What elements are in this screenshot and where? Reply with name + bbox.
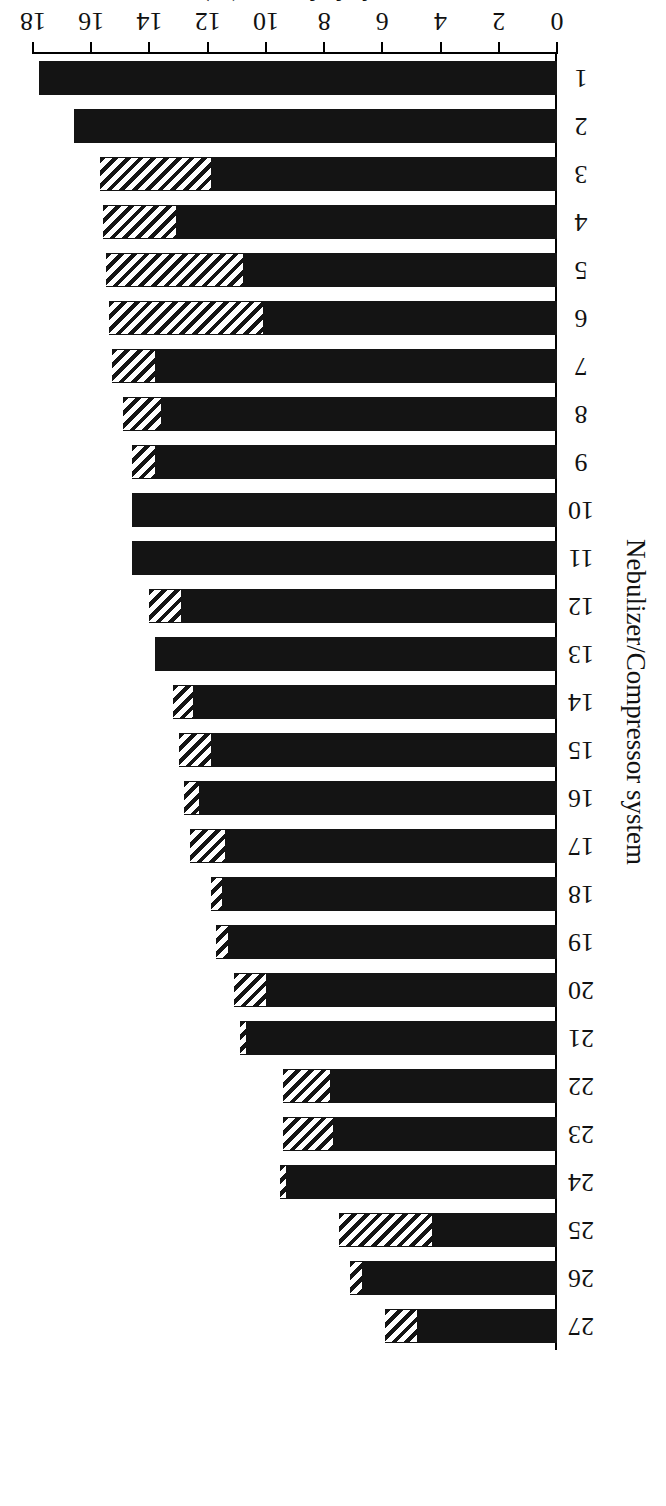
bar-segment-solid [39, 61, 557, 95]
bar-segment-solid [161, 397, 557, 431]
bar-row[interactable]: 19 [33, 925, 557, 959]
value-axis-tick-label: 18 [20, 8, 46, 34]
bar-row[interactable]: 24 [33, 1165, 557, 1199]
bar-row[interactable]: 22 [33, 1069, 557, 1103]
value-axis-tick-label: 12 [195, 8, 221, 34]
bar-row[interactable]: 21 [33, 1021, 557, 1055]
value-axis-tick [323, 42, 325, 54]
bar-row[interactable]: 8 [33, 397, 557, 431]
category-axis-label: 1 [561, 61, 601, 95]
value-axis-tick [556, 42, 558, 54]
value-axis-title: Inhaled mass (%) [33, 0, 557, 6]
bar-segment-hatched [179, 733, 211, 767]
bar-segment-solid [228, 925, 557, 959]
category-axis-label: 3 [561, 157, 601, 191]
category-axis-label: 22 [561, 1069, 601, 1103]
category-axis-label: 25 [561, 1213, 601, 1247]
value-axis-tick-label: 8 [318, 8, 331, 34]
bar-segment-hatched [283, 1069, 330, 1103]
bar-row[interactable]: 14 [33, 685, 557, 719]
bar-segment-hatched [106, 253, 243, 287]
bar-row[interactable]: 15 [33, 733, 557, 767]
bar-segment-solid [330, 1069, 557, 1103]
category-axis-label: 6 [561, 301, 601, 335]
category-axis-label: 2 [561, 109, 601, 143]
bar-row[interactable]: 9 [33, 445, 557, 479]
bar-row[interactable]: 3 [33, 157, 557, 191]
value-axis-tick-label: 14 [136, 8, 162, 34]
bar-row[interactable]: 2 [33, 109, 557, 143]
bar-segment-hatched [112, 349, 156, 383]
bar-segment-solid [417, 1309, 557, 1343]
bar-segment-solid [132, 493, 557, 527]
bar-segment-hatched [103, 205, 176, 239]
value-axis-tick-label: 6 [376, 8, 389, 34]
value-axis-tick-label: 4 [434, 8, 447, 34]
category-axis-label: 5 [561, 253, 601, 287]
bar-segment-solid [199, 781, 557, 815]
bar-segment-hatched [173, 685, 193, 719]
bar-row[interactable]: 27 [33, 1309, 557, 1343]
value-axis-line [33, 52, 557, 54]
bar-row[interactable]: 16 [33, 781, 557, 815]
bar-row[interactable]: 20 [33, 973, 557, 1007]
category-axis-label: 19 [561, 925, 601, 959]
bar-segment-solid [246, 1021, 557, 1055]
value-axis-tick [498, 42, 500, 54]
bar-segment-solid [211, 157, 557, 191]
bar-segment-hatched [100, 157, 211, 191]
bar-segment-solid [74, 109, 557, 143]
bar-segment-hatched [216, 925, 228, 959]
bar-row[interactable]: 10 [33, 493, 557, 527]
plot-area: 0246810121416181234567891011121314151617… [33, 54, 557, 1350]
bar-segment-hatched [123, 397, 161, 431]
category-axis-label: 21 [561, 1021, 601, 1055]
bar-row[interactable]: 13 [33, 637, 557, 671]
category-axis-label: 14 [561, 685, 601, 719]
bar-row[interactable]: 18 [33, 877, 557, 911]
category-axis-label: 27 [561, 1309, 601, 1343]
bar-row[interactable]: 11 [33, 541, 557, 575]
bar-row[interactable]: 6 [33, 301, 557, 335]
figure-rotated-180: Nebulizer/Compressor system 024681012141… [0, 0, 666, 1506]
category-axis-label: 12 [561, 589, 601, 623]
bar-row[interactable]: 26 [33, 1261, 557, 1295]
bar-segment-solid [362, 1261, 557, 1295]
value-axis-tick-label: 16 [78, 8, 104, 34]
bar-segment-hatched [240, 1021, 246, 1055]
bar-row[interactable]: 25 [33, 1213, 557, 1247]
bar-segment-hatched [280, 1165, 286, 1199]
bar-segment-solid [132, 541, 557, 575]
category-axis-label: 8 [561, 397, 601, 431]
bar-segment-solid [211, 733, 557, 767]
bar-segment-solid [155, 445, 557, 479]
bar-row[interactable]: 4 [33, 205, 557, 239]
value-axis-tick-label: 2 [492, 8, 505, 34]
bar-segment-hatched [234, 973, 266, 1007]
bar-segment-hatched [149, 589, 181, 623]
bar-segment-solid [432, 1213, 557, 1247]
bar-segment-hatched [350, 1261, 362, 1295]
category-axis-label: 17 [561, 829, 601, 863]
category-axis-label: 7 [561, 349, 601, 383]
bar-row[interactable]: 17 [33, 829, 557, 863]
category-axis-label: 23 [561, 1117, 601, 1151]
bar-segment-solid [266, 973, 557, 1007]
bar-segment-solid [243, 253, 557, 287]
bar-row[interactable]: 1 [33, 61, 557, 95]
bar-row[interactable]: 12 [33, 589, 557, 623]
value-axis-tick [148, 42, 150, 54]
category-axis-label: 24 [561, 1165, 601, 1199]
bar-segment-solid [155, 637, 557, 671]
value-axis-tick [265, 42, 267, 54]
bar-row[interactable]: 7 [33, 349, 557, 383]
value-axis-tick [90, 42, 92, 54]
value-axis-tick [32, 42, 34, 54]
value-axis-tick [440, 42, 442, 54]
bar-segment-hatched [109, 301, 263, 335]
bar-row[interactable]: 23 [33, 1117, 557, 1151]
bar-row[interactable]: 5 [33, 253, 557, 287]
value-axis-tick-label: 10 [253, 8, 279, 34]
bar-segment-hatched [283, 1117, 332, 1151]
value-axis-tick-label: 0 [551, 8, 564, 34]
